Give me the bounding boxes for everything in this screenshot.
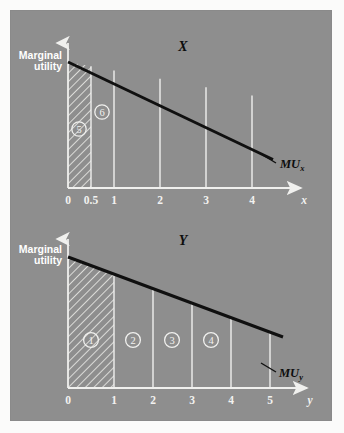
y-chart-x-tick-label-0: 0	[65, 394, 71, 406]
svg-text:2: 2	[130, 335, 135, 346]
mu-x-leader-line	[261, 154, 276, 163]
x-tick-label-0: 0	[65, 194, 71, 206]
chart-marginal-utility-x: 5 6 0 0.5 1 2 3 4 x Marginal utility X M	[11, 11, 331, 216]
x-tick-label-4: 4	[249, 194, 255, 206]
shaded-region-y	[68, 257, 114, 388]
mu-y-leader-line	[261, 363, 276, 372]
y-chart-x-axis-name: y	[305, 394, 313, 407]
y-axis-name-line2: utility	[34, 60, 62, 72]
y-chart-x-tick-label-1: 1	[111, 394, 117, 406]
chart-title-y: Y	[179, 233, 189, 248]
region-marker-6: 6	[95, 105, 109, 119]
mu-x-label: MUx	[279, 157, 305, 173]
region-marker-2: 2	[126, 333, 141, 348]
svg-text:4: 4	[208, 335, 214, 346]
x-axis-name: x	[300, 194, 307, 206]
svg-text:3: 3	[169, 335, 174, 346]
chart-title-x: X	[177, 39, 188, 54]
x-tick-label-2: 2	[157, 194, 163, 206]
region-marker-3: 3	[165, 333, 180, 348]
x-tick-label-1: 1	[111, 194, 117, 206]
y-chart-x-tick-label-5: 5	[267, 394, 273, 406]
x-tick-label-3: 3	[203, 194, 209, 206]
y-chart-y-axis-name-line2: utility	[34, 254, 62, 266]
x-tick-label-0.5: 0.5	[84, 194, 99, 206]
region-marker-4: 4	[204, 333, 219, 348]
svg-text:6: 6	[99, 107, 104, 118]
y-chart-x-tick-label-2: 2	[150, 394, 156, 406]
svg-text:5: 5	[76, 124, 81, 135]
chart-marginal-utility-y: 1 2 3 4 0 1 2 3 4 5 y Margin	[11, 215, 331, 420]
y-chart-x-tick-label-4: 4	[228, 394, 234, 406]
mu-y-label: MUy	[278, 366, 303, 382]
svg-text:1: 1	[88, 335, 93, 346]
y-chart-x-tick-label-3: 3	[189, 394, 195, 406]
figure-panel: 5 6 0 0.5 1 2 3 4 x Marginal utility X M	[11, 11, 331, 420]
